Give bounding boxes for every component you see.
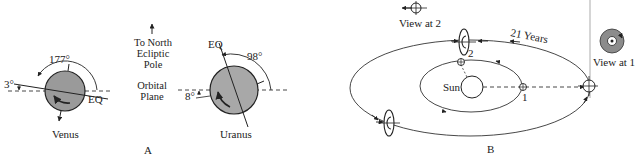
venus-equator-label: EQ (88, 93, 103, 105)
venus-axis-top (68, 64, 69, 71)
view-at-1-icon (600, 29, 624, 53)
earth-position-2 (458, 59, 465, 66)
uranus-tilt-label: 8° (185, 90, 195, 102)
sun-to-position2-dashed-line (461, 65, 467, 77)
venus-planet (45, 71, 85, 111)
venus-name-label: Venus (52, 128, 79, 140)
uranus-axis-tick (257, 81, 264, 84)
uranus-name-label: Uranus (220, 128, 252, 140)
pole-label-line3: Pole (144, 59, 163, 70)
view-at-1-label: View at 1 (593, 56, 635, 68)
uranus-position-2: 2 (451, 29, 488, 59)
tilt-diagram: 177° 3° EQ Venus To North Ecliptic Pole … (0, 0, 635, 157)
uranus-equator-label: EQ (208, 38, 223, 50)
view-at-2-label: View at 2 (399, 17, 441, 29)
sun-label: Sun (443, 81, 461, 93)
inner-orbit-arrow-top-icon (496, 61, 500, 62)
panel-b: Sun 1 2 (350, 0, 635, 155)
uranus-diagram: EQ 98° 8° Uranus (178, 38, 290, 140)
venus-diagram: 177° 3° EQ Venus (4, 53, 112, 140)
venus-obliquity-label: 177° (49, 53, 70, 65)
view-at-2-icon (402, 1, 427, 15)
panel-a-center-labels: To North Ecliptic Pole Orbital Plane (134, 24, 173, 102)
panel-a: 177° 3° EQ Venus To North Ecliptic Pole … (4, 24, 290, 156)
pole-label-line1: To North (134, 37, 173, 48)
venus-axis-arrow-icon (59, 111, 61, 121)
position-2-label: 2 (468, 47, 474, 59)
panel-a-label: A (144, 144, 152, 156)
uranus-tilt-tick (196, 96, 210, 98)
pole-label-line2: Ecliptic (137, 48, 170, 59)
plane-label-line1: Orbital (137, 80, 167, 91)
earth-position-1: 1 (520, 84, 528, 104)
uranus-obliquity-label: 98° (247, 50, 262, 62)
venus-tilt-label: 3° (4, 78, 14, 90)
position-1-label: 1 (522, 91, 528, 103)
uranus-position-3 (376, 110, 400, 136)
inner-orbit-arrow-bottom-icon (442, 111, 446, 112)
period-label: 21 Years (510, 26, 549, 45)
uranus-planet (210, 66, 258, 114)
outer-orbit-arrow-left-icon (372, 115, 378, 120)
outer-orbit-arrow-top-icon (510, 41, 520, 42)
panel-b-label: B (487, 143, 494, 155)
sun (461, 76, 483, 98)
plane-label-line2: Plane (140, 91, 164, 102)
